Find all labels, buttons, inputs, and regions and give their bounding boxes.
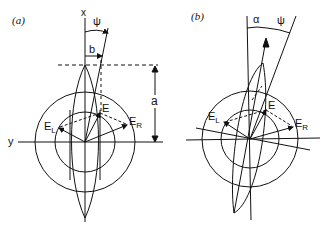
- polarization-diagram: (a) x y ψ b a E: [0, 0, 329, 232]
- a-arrow-down: [152, 136, 158, 142]
- panel-b-label: (b): [191, 10, 204, 23]
- EL-vector-b: [224, 122, 250, 139]
- psi-label: ψ: [93, 15, 101, 27]
- panel-a: (a) x y ψ b a E: [8, 7, 163, 222]
- E-label: E: [102, 102, 109, 114]
- EL-label: EL: [44, 120, 56, 135]
- y-axis-label: y: [8, 135, 14, 147]
- psi-arc: [85, 30, 108, 33]
- psi-arc-b: [267, 28, 290, 33]
- psi-label-b: ψ: [277, 14, 285, 26]
- alpha-label: α: [253, 13, 260, 25]
- ER-vector-b: [250, 127, 293, 139]
- a-arrow-up: [152, 66, 158, 72]
- ER-label: ER: [129, 115, 142, 130]
- diagram-svg: (a) x y ψ b a E: [0, 0, 329, 232]
- b-label: b: [89, 43, 95, 55]
- panel-a-label: (a): [12, 14, 25, 27]
- x-axis-label: x: [81, 7, 86, 18]
- alpha-arc: [247, 27, 267, 28]
- a-label: a: [151, 94, 158, 108]
- EL-label-b: EL: [208, 110, 220, 125]
- ER-vector: [85, 125, 127, 142]
- E-vector: [85, 113, 100, 142]
- panel-b: (b) α ψ E EL ER: [186, 10, 320, 220]
- E-label-b: E: [268, 99, 275, 111]
